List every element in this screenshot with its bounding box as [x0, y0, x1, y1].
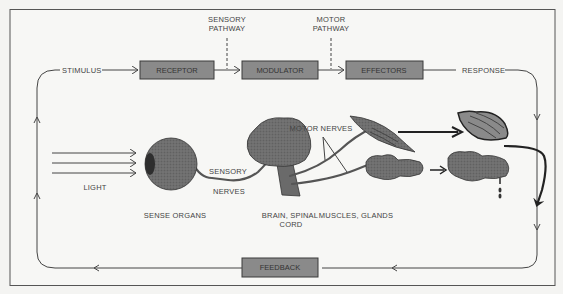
sensory-pathway-label-1: SENSORY	[208, 15, 246, 24]
brain-spinal-cord-label-1: BRAIN, SPINAL	[262, 211, 318, 220]
feedback-loop-diagram: STIMULUS RECEPTOR SENSORY PATHWAY MODULA…	[0, 0, 563, 294]
sensory-pathway-label-2: PATHWAY	[209, 24, 246, 33]
response-label: RESPONSE	[462, 66, 505, 75]
receptor-label: RECEPTOR	[156, 66, 198, 75]
brain-spinal-cord-label-2: CORD	[280, 220, 303, 229]
motor-pathway-label-1: MOTOR	[317, 15, 346, 24]
light-label: LIGHT	[83, 183, 106, 192]
feedback-label: FEEDBACK	[260, 263, 300, 272]
muscles-glands-label: MUSCLES, GLANDS	[319, 211, 393, 220]
sensory-nerves-label-2: NERVES	[213, 187, 245, 196]
stimulus-label: STIMULUS	[62, 66, 102, 75]
modulator-label: MODULATOR	[256, 66, 304, 75]
motor-pathway-label-2: PATHWAY	[313, 24, 350, 33]
motor-nerves-label: MOTOR NERVES	[290, 124, 353, 133]
sense-organs-label: SENSE ORGANS	[144, 211, 206, 220]
effectors-label: EFFECTORS	[361, 66, 406, 75]
sensory-nerves-label-1: SENSORY	[209, 167, 247, 176]
